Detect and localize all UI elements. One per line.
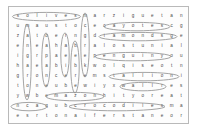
grid-cell: l: [138, 101, 148, 111]
grid-cell: e: [148, 61, 158, 71]
grid-cell: z: [13, 31, 23, 41]
grid-cell: c: [80, 21, 90, 31]
grid-cell: i: [13, 51, 23, 61]
grid-cell: f: [90, 111, 100, 121]
grid-cell: i: [176, 71, 186, 81]
grid-cell: r: [148, 91, 158, 101]
grid-cell: w: [119, 81, 129, 91]
grid-cell: z: [71, 91, 81, 101]
grid-cell: k: [80, 61, 90, 71]
grid-cell: a: [42, 41, 52, 51]
grid-cell: e: [13, 111, 23, 121]
grid-cell: v: [51, 11, 61, 21]
grid-cell: h: [51, 41, 61, 51]
grid-cell: l: [176, 41, 186, 51]
grid-cell: o: [51, 111, 61, 121]
grid-cell: y: [157, 51, 167, 61]
grid-cell: t: [138, 21, 148, 31]
grid-cell: t: [13, 81, 23, 91]
grid-cell: a: [167, 41, 177, 51]
grid-cell: n: [148, 111, 158, 121]
grid-cell: n: [138, 31, 148, 41]
grid-cell: a: [128, 81, 138, 91]
grid-cell: y: [128, 91, 138, 101]
grid-cell: u: [138, 41, 148, 51]
grid-cell: e: [148, 101, 158, 111]
grid-cell: s: [51, 21, 61, 31]
grid-cell: o: [167, 51, 177, 61]
grid-cell: a: [167, 91, 177, 101]
grid-cell: g: [80, 31, 90, 41]
grid-cell: i: [90, 81, 100, 91]
letter-grid: solivesmarziguetanumaustocecayotescgzato…: [13, 11, 186, 121]
grid-cell: n: [71, 31, 81, 41]
grid-cell: r: [71, 71, 81, 81]
grid-cell: c: [99, 21, 109, 31]
grid-cell: l: [138, 81, 148, 91]
grid-cell: g: [128, 11, 138, 21]
grid-cell: h: [99, 91, 109, 101]
grid-cell: e: [61, 71, 71, 81]
grid-cell: i: [128, 101, 138, 111]
grid-cell: p: [90, 51, 100, 61]
grid-cell: e: [157, 111, 167, 121]
grid-cell: o: [109, 101, 119, 111]
grid-cell: a: [90, 41, 100, 51]
grid-cell: e: [157, 91, 167, 101]
grid-cell: e: [167, 81, 177, 91]
grid-cell: n: [61, 111, 71, 121]
grid-cell: e: [71, 51, 81, 61]
grid-cell: s: [176, 81, 186, 91]
grid-cell: n: [42, 71, 52, 81]
grid-cell: w: [90, 61, 100, 71]
grid-cell: i: [148, 71, 158, 81]
grid-cell: i: [109, 91, 119, 101]
grid-cell: u: [51, 81, 61, 91]
grid-cell: o: [99, 61, 109, 71]
grid-cell: o: [90, 101, 100, 111]
grid-cell: c: [23, 101, 33, 111]
grid-cell: l: [138, 71, 148, 81]
grid-cell: r: [61, 31, 71, 41]
grid-cell: p: [42, 51, 52, 61]
grid-cell: a: [32, 101, 42, 111]
grid-cell: o: [42, 31, 52, 41]
grid-cell: o: [167, 111, 177, 121]
grid-cell: s: [157, 31, 167, 41]
grid-cell: s: [71, 11, 81, 21]
grid-cell: t: [32, 31, 42, 41]
grid-cell: a: [23, 31, 33, 41]
grid-cell: n: [148, 41, 158, 51]
grid-cell: a: [71, 111, 81, 121]
grid-cell: h: [13, 61, 23, 71]
puzzle-page: solivesmarziguetanumaustocecayotescgzato…: [0, 0, 197, 130]
grid-cell: s: [157, 101, 167, 111]
grid-cell: c: [51, 71, 61, 81]
grid-cell: b: [71, 41, 81, 51]
grid-cell: l: [109, 61, 119, 71]
grid-cell: u: [128, 51, 138, 61]
grid-cell: a: [109, 31, 119, 41]
grid-cell: n: [13, 101, 23, 111]
grid-cell: l: [148, 81, 158, 91]
grid-cell: e: [32, 41, 42, 51]
grid-cell: e: [42, 91, 52, 101]
grid-cell: r: [176, 111, 186, 121]
grid-cell: b: [61, 101, 71, 111]
grid-cell: a: [167, 11, 177, 21]
grid-cell: u: [51, 101, 61, 111]
grid-cell: o: [23, 81, 33, 91]
grid-cell: d: [148, 31, 158, 41]
grid-cell: e: [99, 51, 109, 61]
grid-cell: i: [42, 11, 52, 21]
grid-cell: r: [99, 11, 109, 21]
grid-cell: o: [138, 91, 148, 101]
grid-cell: e: [61, 11, 71, 21]
grid-cell: z: [109, 11, 119, 21]
grid-cell: t: [128, 41, 138, 51]
grid-cell: s: [157, 21, 167, 31]
grid-cell: l: [99, 41, 109, 51]
grid-cell: n: [23, 41, 33, 51]
grid-cell: d: [90, 31, 100, 41]
grid-cell: q: [119, 61, 129, 71]
